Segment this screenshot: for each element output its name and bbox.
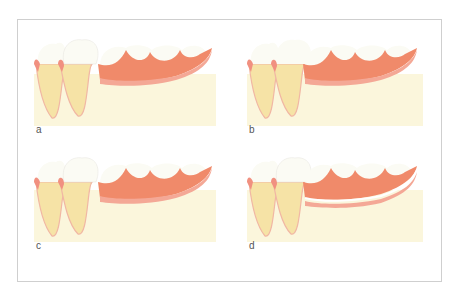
panel-b: b	[233, 22, 433, 132]
denture-illustration-b	[233, 22, 433, 132]
denture-illustration-c	[16, 156, 216, 266]
panel-c: c	[16, 156, 216, 266]
panel-label: b	[249, 125, 255, 135]
panel-label: d	[249, 241, 255, 251]
denture-illustration-a	[16, 22, 216, 132]
tooth-crown-2	[63, 158, 98, 182]
panel-label: a	[36, 125, 42, 135]
panel-a: a	[16, 22, 216, 132]
denture-illustration-d	[233, 156, 433, 266]
panel-label: c	[36, 241, 41, 251]
panel-d: d	[233, 156, 433, 266]
tooth-crown-2	[63, 40, 98, 64]
